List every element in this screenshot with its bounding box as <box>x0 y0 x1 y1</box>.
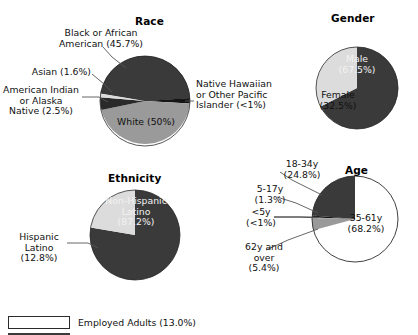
gender-label-female-line2: (32.5%) <box>310 101 366 112</box>
age-label-5-17y: 5-17y (1.3%) <box>244 184 296 205</box>
age-label-3561-line1: 35-61y <box>337 213 395 224</box>
ethnicity-label-hispanic-latino: Hispanic Latino (12.8%) <box>10 232 68 264</box>
age-label-under-5y: <5y (<1%) <box>238 207 284 228</box>
race-label-aian-line1: American Indian <box>0 85 82 96</box>
age-label-u5-line2: (<1%) <box>238 218 284 229</box>
race-label-white-line1: White (50%) <box>108 117 184 128</box>
age-label-517-line2: (1.3%) <box>244 195 296 206</box>
race-label-black-or-african-american: Black or African American (45.7%) <box>36 28 166 49</box>
race-slice-black-upper <box>101 56 190 101</box>
ethnicity-label-nhl-line3: (87.2%) <box>92 217 180 228</box>
gender-label-female-line1: Female <box>310 90 366 101</box>
race-label-nhopi-line3: Islander (<1%) <box>196 100 292 111</box>
age-label-62-line1: 62y and <box>233 242 295 253</box>
age-label-3561-line2: (68.2%) <box>337 224 395 235</box>
age-chart-title: Age <box>345 164 368 176</box>
age-label-18-34y: 18-34y (24.8%) <box>274 159 330 180</box>
race-label-white: White (50%) <box>108 117 184 128</box>
age-label-62-line3: (5.4%) <box>233 263 295 274</box>
age-label-1834-line1: 18-34y <box>274 159 330 170</box>
race-leader-black <box>103 47 126 68</box>
ethnicity-label-hl-line3: (12.8%) <box>10 253 68 264</box>
race-chart-title: Race <box>135 15 164 27</box>
age-label-u5-line1: <5y <box>238 207 284 218</box>
ethnicity-label-non-hispanic-latino: Non-Hispanic Latino (87.2%) <box>92 196 180 228</box>
race-label-black-line1: Black or African <box>36 28 166 39</box>
age-label-517-line1: 5-17y <box>244 184 296 195</box>
legend-second-swatch-edge <box>8 333 70 335</box>
race-label-asian-line1: Asian (1.6%) <box>0 67 91 78</box>
race-pie <box>100 56 190 146</box>
employed-adults-swatch <box>8 316 70 329</box>
figure-legend: Employed Adults (13.0%) <box>8 316 196 329</box>
employed-adults-legend-label: Employed Adults (13.0%) <box>78 317 196 328</box>
gender-chart-title: Gender <box>331 12 375 24</box>
ethnicity-label-hl-line1: Hispanic <box>10 232 68 243</box>
race-label-nhopi-line1: Native Hawaiian <box>196 79 292 90</box>
gender-label-female: Female (32.5%) <box>310 90 366 111</box>
age-label-35-61y: 35-61y (68.2%) <box>337 213 395 234</box>
age-label-1834-line2: (24.8%) <box>274 170 330 181</box>
demographics-pie-figure: Race Gender Ethnicity Age Black or Afric… <box>0 0 418 335</box>
race-label-black-line2: American (45.7%) <box>36 39 166 50</box>
race-label-american-indian-or-alaska-native: American Indian or Alaska Native (2.5%) <box>0 85 82 117</box>
gender-label-male: Male (67.5%) <box>329 54 385 75</box>
gender-label-male-line1: Male <box>329 54 385 65</box>
race-label-aian-line3: Native (2.5%) <box>0 106 82 117</box>
ethnicity-label-nhl-line1: Non-Hispanic <box>92 196 180 207</box>
race-label-native-hawaiian-or-other-pacific-islander: Native Hawaiian or Other Pacific Islande… <box>196 79 292 111</box>
gender-label-male-line2: (67.5%) <box>329 65 385 76</box>
age-label-62y-and-over: 62y and over (5.4%) <box>233 242 295 274</box>
ethnicity-chart-title: Ethnicity <box>108 172 161 184</box>
race-label-asian: Asian (1.6%) <box>0 67 91 78</box>
